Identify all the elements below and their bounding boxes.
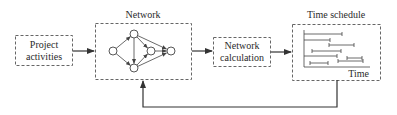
network-calculation-label-1: Network <box>225 40 260 51</box>
network-calculation-label-2: calculation <box>220 52 264 63</box>
network-node-bottom <box>130 64 138 72</box>
network-title: Network <box>126 9 161 20</box>
network-calculation-box: Network calculation <box>214 38 271 67</box>
project-activities-label-1: Project <box>30 39 59 50</box>
network-box: Network <box>96 9 192 80</box>
network-node-left <box>109 47 117 55</box>
network-node-right <box>167 47 175 55</box>
project-activities-box: Project activities <box>16 36 73 66</box>
time-schedule-box: Time schedule Time <box>293 9 381 81</box>
network-node-middle <box>147 47 155 55</box>
network-node-top <box>130 30 138 38</box>
project-activities-label-2: activities <box>26 51 62 62</box>
gantt-chart <box>304 30 370 67</box>
flow-diagram: Project activities Network Networ <box>0 0 397 115</box>
network-graph <box>116 36 167 67</box>
feedback-arrow <box>143 80 337 107</box>
time-schedule-title: Time schedule <box>307 9 366 20</box>
time-axis-label: Time <box>348 68 369 79</box>
